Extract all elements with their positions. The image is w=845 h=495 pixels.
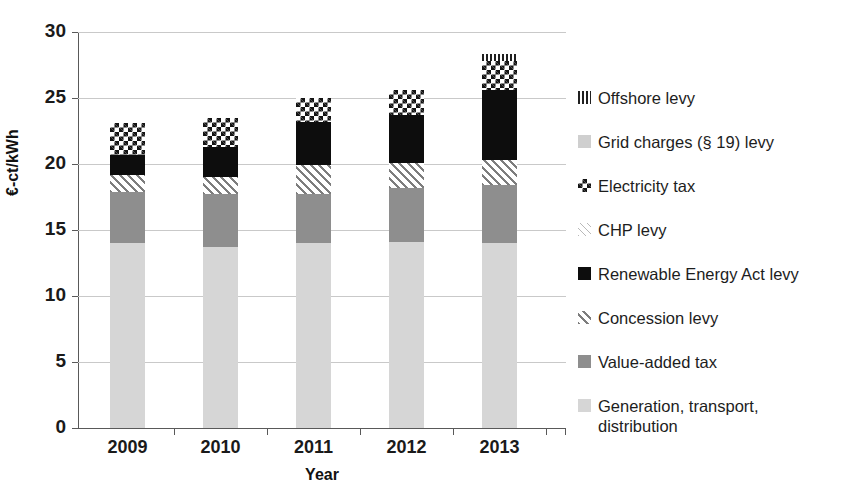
bar-segment-eeg[interactable] [482, 90, 517, 160]
legend-label: Renewable Energy Act levy [598, 264, 799, 284]
x-axis-title: Year [78, 466, 566, 484]
legend-item-electricity[interactable]: Electricity tax [578, 176, 840, 196]
bar-segment-electricity[interactable] [296, 98, 331, 122]
x-tick-mark [267, 429, 268, 435]
bar-segment-generation[interactable] [389, 242, 424, 428]
legend-label: CHP levy [598, 220, 666, 240]
bar-2012[interactable] [389, 32, 424, 428]
bar-segment-generation[interactable] [203, 247, 238, 428]
bar-segment-vat[interactable] [203, 194, 238, 247]
legend-item-offshore[interactable]: Offshore levy [578, 88, 840, 108]
legend-label: Grid charges (§ 19) levy [598, 132, 774, 152]
x-axis-end-tick [565, 429, 566, 435]
legend-label: Electricity tax [598, 176, 695, 196]
x-tick-label-2012: 2012 [362, 437, 452, 458]
x-tick-label-2013: 2013 [455, 437, 545, 458]
bar-segment-vat[interactable] [482, 185, 517, 243]
bar-2013[interactable] [482, 32, 517, 428]
grid19-swatch-icon [578, 135, 591, 148]
x-axis-line [78, 428, 566, 429]
y-tick-label: 0 [55, 416, 66, 438]
stacked-bar-chart: €-ct/kWh 051015202530 200920102011201220… [0, 0, 845, 495]
bar-segment-eeg[interactable] [203, 147, 238, 177]
bar-segment-vat[interactable] [296, 194, 331, 243]
y-tick-label: 10 [45, 284, 66, 306]
bar-segment-concession[interactable] [110, 175, 145, 192]
plot-area [78, 32, 565, 428]
y-tick-label: 5 [55, 350, 66, 372]
bar-segment-electricity[interactable] [110, 123, 145, 155]
x-tick-label-2010: 2010 [176, 437, 266, 458]
bar-segment-eeg[interactable] [296, 122, 331, 166]
bar-2011[interactable] [296, 32, 331, 428]
legend-item-chp[interactable]: CHP levy [578, 220, 840, 240]
y-axis-title: €-ct/kWh [4, 129, 22, 196]
y-tick-label: 15 [45, 218, 66, 240]
x-tick-label-2011: 2011 [269, 437, 359, 458]
y-tick-label: 30 [45, 20, 66, 42]
bar-segment-generation[interactable] [296, 243, 331, 428]
legend-item-eeg[interactable]: Renewable Energy Act levy [578, 264, 840, 284]
y-tick-mark [72, 428, 78, 429]
y-tick-label: 20 [45, 152, 66, 174]
bar-segment-generation[interactable] [482, 243, 517, 428]
bar-segment-offshore[interactable] [482, 54, 517, 61]
x-tick-mark [546, 429, 547, 435]
bar-segment-electricity[interactable] [203, 118, 238, 147]
x-tick-mark [360, 429, 361, 435]
legend-item-vat[interactable]: Value-added tax [578, 352, 840, 372]
bar-segment-eeg[interactable] [389, 115, 424, 163]
bar-segment-generation[interactable] [110, 243, 145, 428]
x-tick-label-2009: 2009 [83, 437, 173, 458]
x-tick-mark [174, 429, 175, 435]
x-tick-mark [453, 429, 454, 435]
eeg-swatch-icon [578, 267, 591, 280]
bar-segment-electricity[interactable] [389, 90, 424, 115]
vat-swatch-icon [578, 355, 591, 368]
chp-swatch-icon [578, 223, 591, 236]
offshore-swatch-icon [578, 91, 591, 104]
bar-segment-concession[interactable] [482, 160, 517, 185]
bar-segment-vat[interactable] [389, 188, 424, 242]
legend-item-generation[interactable]: Generation, transport, distribution [578, 396, 840, 436]
bar-segment-concession[interactable] [389, 163, 424, 188]
bar-segment-vat[interactable] [110, 192, 145, 243]
legend-label: Offshore levy [598, 88, 695, 108]
electricity-swatch-icon [578, 179, 591, 192]
bar-2009[interactable] [110, 32, 145, 428]
bar-segment-eeg[interactable] [110, 155, 145, 175]
bar-segment-concession[interactable] [296, 165, 331, 194]
legend-item-grid19[interactable]: Grid charges (§ 19) levy [578, 132, 840, 152]
concession-swatch-icon [578, 311, 591, 324]
y-tick-label: 25 [45, 86, 66, 108]
bar-segment-concession[interactable] [203, 177, 238, 194]
legend-label: Generation, transport, distribution [598, 396, 759, 436]
generation-swatch-icon [578, 399, 591, 412]
legend-label: Value-added tax [598, 352, 717, 372]
bar-segment-electricity[interactable] [482, 61, 517, 90]
legend-item-concession[interactable]: Concession levy [578, 308, 840, 328]
legend-label: Concession levy [598, 308, 718, 328]
bar-2010[interactable] [203, 32, 238, 428]
